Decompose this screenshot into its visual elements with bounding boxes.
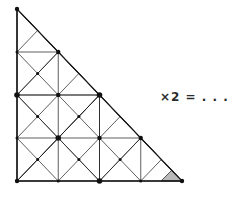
subdivision-line (58, 95, 79, 117)
vertex-node (139, 136, 143, 140)
subdivision-line (79, 95, 100, 117)
subdivision-line (100, 117, 121, 139)
subdivision-line (17, 31, 38, 53)
vertex-node (36, 115, 39, 118)
figure-root: ×2 = . . . . (0, 0, 228, 199)
vertex-node (56, 50, 60, 54)
vertex-node (56, 93, 60, 97)
subdivision-line (58, 117, 79, 139)
subdivision-line (38, 138, 59, 160)
subdivision-line (79, 160, 100, 182)
subdivision-line (100, 138, 121, 160)
vertex-node (16, 137, 19, 140)
subdivision-line (38, 74, 59, 96)
subdivision-line (58, 138, 79, 160)
subdivision-line (58, 74, 79, 96)
vertex-node (77, 115, 80, 118)
subdivision-line (17, 95, 38, 117)
subdivision-line (38, 95, 59, 117)
vertex-node (16, 51, 19, 54)
vertex-node (15, 7, 19, 11)
vertex-node (36, 158, 39, 161)
shaded-region-group (161, 171, 182, 182)
vertex-node (119, 158, 122, 161)
vertex-node (97, 92, 103, 98)
vertex-node (97, 178, 103, 184)
subdivision-line (120, 160, 141, 182)
vertex-node (57, 180, 60, 183)
subdivision-line (100, 160, 121, 182)
vertex-node (36, 72, 39, 75)
subdivision-line (58, 160, 79, 182)
subdivision-line (38, 160, 59, 182)
subdivision-line (17, 138, 38, 160)
vertex-node (180, 179, 184, 183)
vertex-node (55, 135, 61, 141)
subdivision-line (38, 117, 59, 139)
subdivision-line (79, 117, 100, 139)
vertex-node (14, 92, 20, 98)
subdivision-line (17, 117, 38, 139)
subdivision-line (141, 160, 162, 182)
vertex-node (77, 158, 80, 161)
shaded-unit-triangle (161, 171, 182, 182)
subdivision-line (38, 52, 59, 74)
vertex-node (97, 136, 101, 140)
subdivision-line (17, 52, 38, 74)
subdivision-line (79, 138, 100, 160)
subdivision-line (120, 138, 141, 160)
vertex-node (139, 180, 142, 183)
subdivision-line (17, 74, 38, 96)
vertex-node (15, 179, 19, 183)
equation-label: ×2 = . . . . (160, 90, 228, 104)
subdivision-line (17, 160, 38, 182)
